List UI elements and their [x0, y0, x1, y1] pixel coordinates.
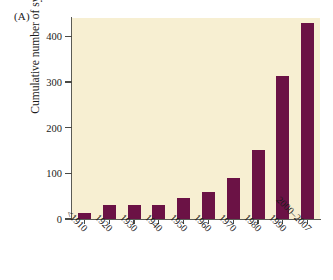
bar	[227, 178, 240, 219]
figure-panel-a: (A) Cumulative number of systems 0100200…	[0, 0, 333, 280]
bar	[301, 23, 314, 219]
y-axis-title: Cumulative number of systems	[29, 0, 41, 137]
y-tick-mark	[65, 36, 72, 37]
bars-layer	[72, 18, 320, 219]
y-tick-label: 0	[32, 214, 62, 225]
bar	[252, 150, 265, 219]
panel-label: (A)	[14, 10, 30, 22]
y-tick-mark	[65, 127, 72, 128]
y-tick-mark	[65, 173, 72, 174]
y-tick-label: 300	[32, 76, 62, 87]
y-tick-label: 100	[32, 168, 62, 179]
y-tick-label: 200	[32, 122, 62, 133]
y-tick-label: 400	[32, 31, 62, 42]
y-tick-mark	[65, 81, 72, 82]
